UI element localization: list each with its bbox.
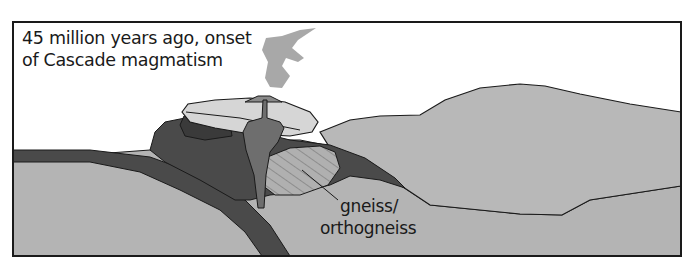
gneiss-label-line2: orthogneiss (320, 218, 416, 239)
gneiss-label-line1: gneiss/ (340, 196, 398, 217)
figure-caption-line1: 45 million years ago, onset (22, 27, 252, 49)
volcanic-plume (262, 28, 316, 88)
figure-caption-line2: of Cascade magmatism (22, 49, 223, 71)
